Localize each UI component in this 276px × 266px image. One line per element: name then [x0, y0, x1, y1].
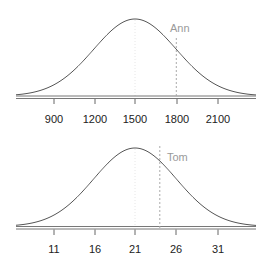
density-curve — [16, 148, 256, 225]
tick-label: 26 — [170, 243, 182, 255]
tick-label: 900 — [45, 113, 63, 125]
density-curve — [16, 19, 256, 95]
chart-figure: Ann 900 1200 1500 1800 2100 To — [0, 0, 276, 266]
x-axis-ticks — [54, 230, 218, 236]
x-axis-labels: 900 1200 1500 1800 2100 — [45, 113, 230, 125]
chart-panel-ann: Ann 900 1200 1500 1800 2100 — [16, 19, 256, 125]
tick-label: 1200 — [83, 113, 107, 125]
tick-label: 11 — [48, 243, 59, 255]
x-axis-ticks — [54, 99, 218, 104]
chart-panel-tom: Tom 11 16 21 26 31 — [16, 146, 256, 255]
tick-label: 31 — [212, 243, 224, 255]
tom-label: Tom — [167, 151, 188, 163]
tick-label: 21 — [129, 243, 141, 255]
tick-label: 16 — [89, 243, 101, 255]
tick-label: 2100 — [206, 113, 230, 125]
x-axis-labels: 11 16 21 26 31 — [48, 243, 224, 255]
ann-label: Ann — [170, 22, 190, 34]
tick-label: 1800 — [165, 113, 189, 125]
tick-label: 1500 — [123, 113, 147, 125]
normal-curves-svg: Ann 900 1200 1500 1800 2100 To — [0, 0, 276, 266]
